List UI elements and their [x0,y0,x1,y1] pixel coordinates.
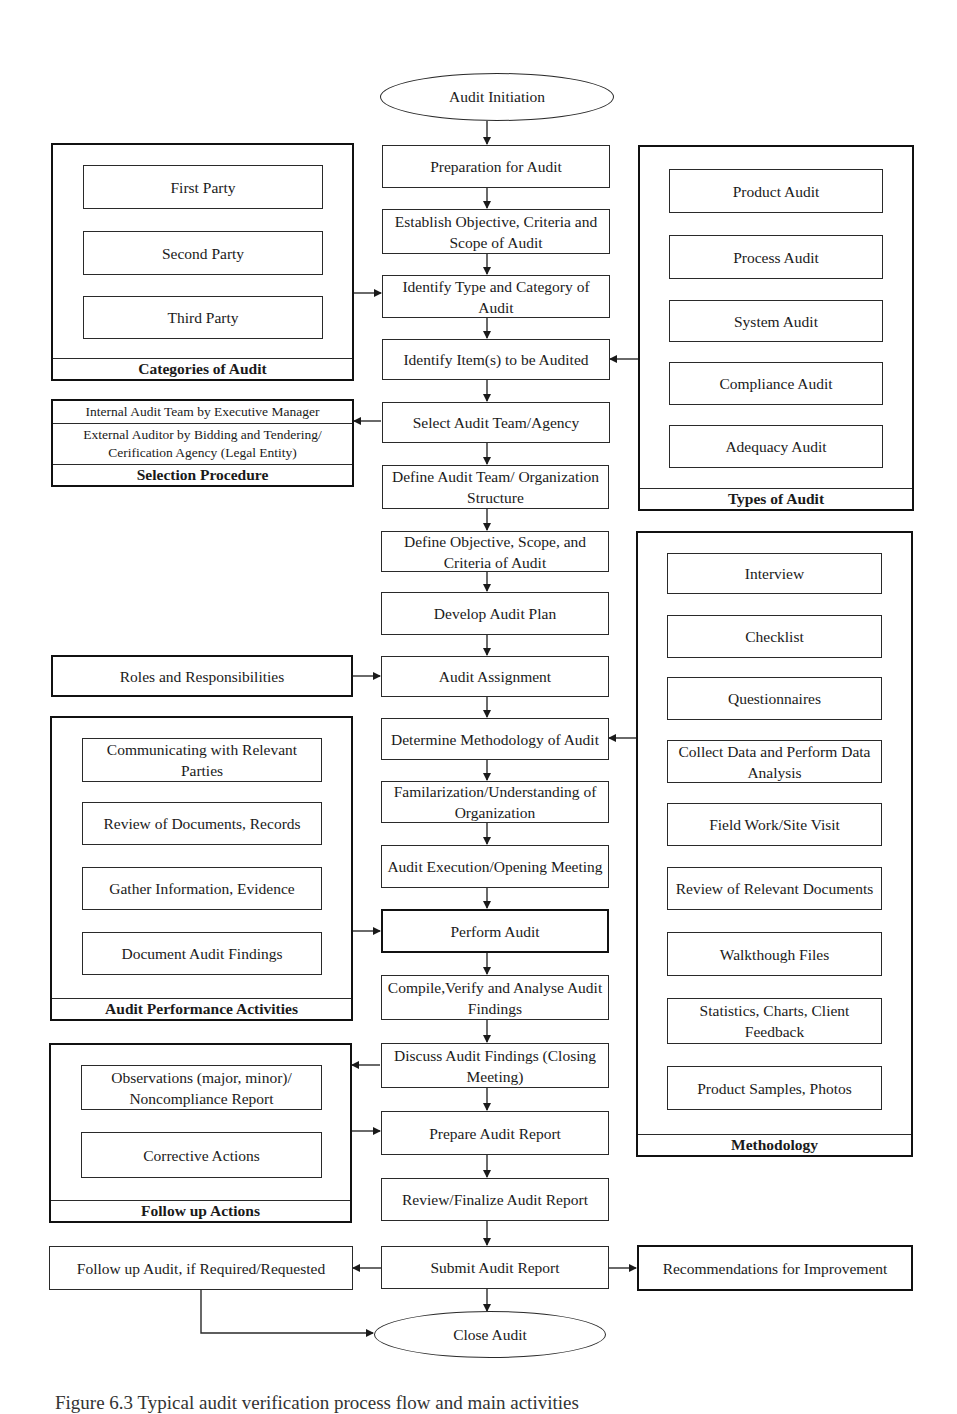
activity-communicating: Communicating with Relevant Parties [82,738,322,782]
recommendations-for-improvement: Recommendations for Improvement [637,1245,913,1291]
categories-of-audit-frame: First Party Second Party Third Party Cat… [51,143,354,381]
step-familiarization: Familarization/Understanding of Organiza… [381,781,609,823]
type-system-audit: System Audit [669,300,883,342]
step-prepare-report: Prepare Audit Report [381,1111,609,1155]
followup-observations: Observations (major, minor)/ Noncomplian… [81,1065,322,1110]
type-compliance-audit: Compliance Audit [669,362,883,405]
step-audit-assignment: Audit Assignment [381,656,609,697]
step-perform-audit: Perform Audit [381,909,609,953]
step-develop-plan: Develop Audit Plan [381,592,609,635]
followup-corrective-actions: Corrective Actions [81,1132,322,1178]
types-of-audit-frame: Product Audit Process Audit System Audit… [638,145,914,511]
end-terminal-close-audit: Close Audit [374,1311,606,1358]
step-define-objective-scope: Define Objective, Scope, and Criteria of… [381,531,609,572]
step-compile-verify: Compile,Verify and Analyse Audit Finding… [381,975,609,1020]
follow-up-actions-title: Follow up Actions [51,1200,350,1221]
type-adequacy-audit: Adequacy Audit [669,425,883,468]
methodology-title: Methodology [638,1134,911,1155]
audit-performance-activities-title: Audit Performance Activities [52,998,351,1019]
method-walkthrough-files: Walkthough Files [667,932,882,976]
method-statistics-charts: Statistics, Charts, Client Feedback [667,998,882,1044]
method-product-samples: Product Samples, Photos [667,1066,882,1110]
step-define-team-structure: Define Audit Team/ Organization Structur… [382,465,609,509]
roles-responsibilities: Roles and Responsibilities [51,655,353,697]
step-audit-execution: Audit Execution/Opening Meeting [381,845,609,888]
type-process-audit: Process Audit [669,235,883,279]
selection-external: External Auditor by Bidding and Tenderin… [53,425,352,465]
method-questionnaires: Questionnaires [667,677,882,720]
method-interview: Interview [667,553,882,594]
figure-caption: Figure 6.3 Typical audit verification pr… [55,1392,579,1414]
selection-procedure-frame: Internal Audit Team by Executive Manager… [51,399,354,487]
method-collect-data: Collect Data and Perform Data Analysis [667,740,882,783]
method-checklist: Checklist [667,615,882,658]
step-submit-report: Submit Audit Report [381,1246,609,1289]
categories-of-audit-title: Categories of Audit [53,358,352,379]
step-select-team: Select Audit Team/Agency [382,402,610,443]
follow-up-actions-frame: Observations (major, minor)/ Noncomplian… [49,1043,352,1223]
category-first-party: First Party [83,165,323,209]
selection-internal: Internal Audit Team by Executive Manager [53,403,352,424]
follow-up-audit: Follow up Audit, if Required/Requested [49,1246,353,1290]
step-establish-objective: Establish Objective, Criteria and Scope … [382,209,610,254]
step-identify-type: Identify Type and Category of Audit [382,275,610,318]
activity-review-documents: Review of Documents, Records [82,802,322,845]
audit-performance-activities-frame: Communicating with Relevant Parties Revi… [50,716,353,1021]
step-determine-methodology: Determine Methodology of Audit [381,718,609,760]
type-product-audit: Product Audit [669,169,883,213]
method-field-work: Field Work/Site Visit [667,803,882,846]
step-discuss-findings: Discuss Audit Findings (Closing Meeting) [381,1043,609,1088]
activity-document-findings: Document Audit Findings [82,932,322,975]
method-review-relevant-docs: Review of Relevant Documents [667,867,882,910]
step-preparation: Preparation for Audit [382,145,610,188]
category-third-party: Third Party [83,296,323,339]
category-second-party: Second Party [83,231,323,275]
step-identify-items: Identify Item(s) to be Audited [382,339,610,380]
methodology-frame: Interview Checklist Questionnaires Colle… [636,531,913,1157]
start-terminal-audit-initiation: Audit Initiation [380,73,614,121]
activity-gather-information: Gather Information, Evidence [82,867,322,910]
types-of-audit-title: Types of Audit [640,488,912,509]
selection-procedure-title: Selection Procedure [53,466,352,486]
step-review-finalize: Review/Finalize Audit Report [381,1178,609,1221]
